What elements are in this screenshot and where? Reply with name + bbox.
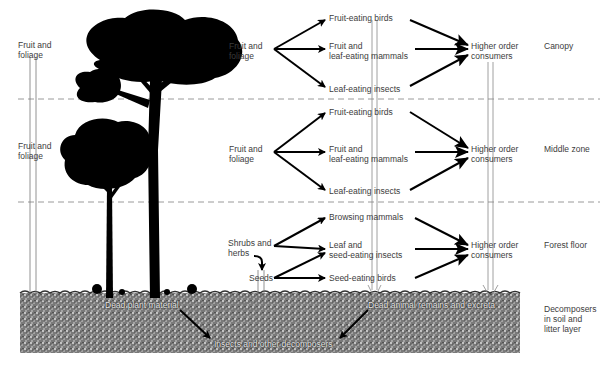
left-flow-lines [30,57,264,310]
label-line: Fruit and [329,41,408,51]
canopy-consumer-fruit-eating-birds: Fruit-eating birds [329,13,393,23]
label-line: Browsing mammals [329,212,403,222]
middle-higher-order-consumers: Higher order consumers [471,144,518,164]
label-line: Fruit and [229,144,263,154]
canopy-source-label: Fruit and foliage [229,41,263,61]
label-line: Fruit-eating birds [329,107,393,117]
dead-animal-remains-label: Dead animal remains and excreta [368,300,495,310]
floor-consumer-seed-eating-birds: Seed-eating birds [329,273,396,283]
label-line: foliage [229,154,263,164]
canopy-higher-order-consumers: Higher order consumers [471,41,518,61]
middle-left-fruit-foliage-label: Fruit and foliage [18,141,52,161]
label-line: Fruit and [329,144,408,154]
floor-seeds-label: Seeds [249,273,273,283]
label-line: Leaf-eating insects [329,84,400,94]
floor-consumer-leaf-seed-insects: Leaf and seed-eating insects [329,240,402,260]
short-tree [60,118,153,298]
food-web-illustration [0,0,611,367]
label-line: Insects and other decomposers [214,339,333,349]
middle-consumer-fruit-leaf-mammals: Fruit and leaf-eating mammals [329,144,408,164]
label-line: Seeds [249,273,273,283]
label-line: Canopy [544,41,573,51]
label-line: Decomposers [544,304,596,314]
label-line: Leaf and [329,240,402,250]
label-line: foliage [18,50,52,60]
label-line: Seed-eating birds [329,273,396,283]
label-line: foliage [229,51,263,61]
label-line: Dead plant material [105,300,179,310]
label-line: Dead animal remains and excreta [368,300,495,310]
canopy-left-fruit-foliage-label: Fruit and foliage [18,40,52,60]
floor-consumer-browsing-mammals: Browsing mammals [329,212,403,222]
middle-source-label: Fruit and foliage [229,144,263,164]
label-line: consumers [471,250,518,260]
dead-plant-material-label: Dead plant material [105,300,179,310]
label-line: seed-eating insects [329,250,402,260]
label-line: in soil and [544,314,596,324]
floor-higher-order-consumers: Higher order consumers [471,240,518,260]
label-line: Middle zone [544,144,590,154]
label-line: Fruit-eating birds [329,13,393,23]
label-line: Leaf-eating insects [329,186,400,196]
label-line: consumers [471,154,518,164]
label-line: Forest floor [544,240,587,250]
label-line: herbs [228,248,271,258]
label-line: Higher order [471,144,518,154]
zone-label-soil: Decomposers in soil and litter layer [544,304,596,334]
label-line: leaf-eating mammals [329,51,408,61]
zone-label-canopy: Canopy [544,41,573,51]
label-line: consumers [471,51,518,61]
label-line: Higher order [471,41,518,51]
label-line: Fruit and [18,40,52,50]
label-line: Higher order [471,240,518,250]
label-line: Fruit and [229,41,263,51]
label-line: litter layer [544,324,596,334]
canopy-consumer-fruit-leaf-mammals: Fruit and leaf-eating mammals [329,41,408,61]
label-line: Shrubs and [228,238,271,248]
middle-consumer-leaf-eating-insects: Leaf-eating insects [329,186,400,196]
label-line: foliage [18,151,52,161]
label-line: Fruit and [18,141,52,151]
canopy-consumer-leaf-eating-insects: Leaf-eating insects [329,84,400,94]
zone-label-forest-floor: Forest floor [544,240,587,250]
insects-decomposers-label: Insects and other decomposers [214,339,333,349]
floor-source-label: Shrubs and herbs [228,238,271,258]
label-line: leaf-eating mammals [329,154,408,164]
zone-label-middle: Middle zone [544,144,590,154]
middle-consumer-fruit-eating-birds: Fruit-eating birds [329,107,393,117]
